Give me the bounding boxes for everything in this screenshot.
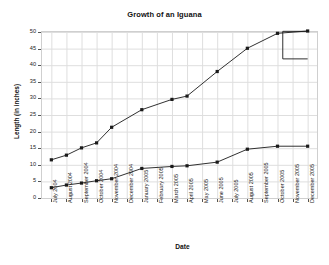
y-tick-label: 35 xyxy=(20,79,36,85)
y-tick-label: 30 xyxy=(20,95,36,101)
data-point-marker xyxy=(276,145,279,148)
data-point-marker xyxy=(170,165,173,168)
data-point-marker xyxy=(95,179,98,182)
series-line-lower-curve xyxy=(51,146,307,188)
data-point-marker xyxy=(140,108,143,111)
data-point-marker xyxy=(246,47,249,50)
data-point-marker xyxy=(50,158,53,161)
data-series-layer xyxy=(41,31,318,199)
data-point-marker xyxy=(140,167,143,170)
y-tick-label: 15 xyxy=(20,145,36,151)
data-point-marker xyxy=(216,70,219,73)
bracket-artifact xyxy=(283,31,308,59)
chart-container: Growth of an Iguana Length (in inches) D… xyxy=(0,0,329,265)
data-point-marker xyxy=(170,98,173,101)
y-tick-label: 25 xyxy=(20,112,36,118)
y-tick-label: 0 xyxy=(20,195,36,201)
x-axis-title: Date xyxy=(40,243,325,250)
chart-title: Growth of an Iguana xyxy=(0,10,329,19)
y-tick-label: 50 xyxy=(20,29,36,35)
data-point-marker xyxy=(185,94,188,97)
y-tick-label: 20 xyxy=(20,129,36,135)
data-point-marker xyxy=(65,183,68,186)
y-tick-label: 5 xyxy=(20,178,36,184)
data-point-marker xyxy=(306,145,309,148)
data-point-marker xyxy=(276,32,279,35)
y-axis-title: Length (in inches) xyxy=(13,57,20,167)
data-point-marker xyxy=(80,146,83,149)
y-tick-label: 10 xyxy=(20,162,36,168)
data-point-marker xyxy=(216,161,219,164)
data-point-marker xyxy=(65,154,68,157)
data-point-marker xyxy=(95,141,98,144)
series-line-upper-curve xyxy=(51,31,307,160)
data-point-marker xyxy=(110,126,113,129)
y-tick-label: 40 xyxy=(20,62,36,68)
data-point-marker xyxy=(110,177,113,180)
data-point-marker xyxy=(80,181,83,184)
y-tick-label: 45 xyxy=(20,46,36,52)
data-point-marker xyxy=(246,148,249,151)
data-point-marker xyxy=(50,186,53,189)
data-point-marker xyxy=(185,164,188,167)
